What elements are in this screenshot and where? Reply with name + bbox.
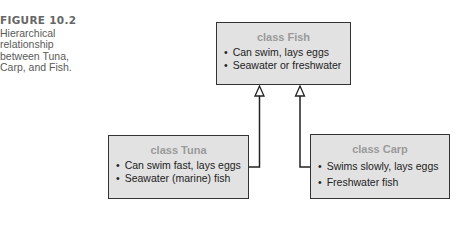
tuna-inheritance-arrow-icon — [255, 86, 264, 96]
class-fish-box: class Fish Can swim, lays eggs Seawater … — [216, 22, 351, 85]
attribute-item: Swims slowly, lays eggs — [318, 158, 449, 174]
attribute-item: Seawater or freshwater — [224, 59, 350, 72]
tuna-to-fish-line — [249, 96, 260, 167]
class-tuna-attributes: Can swim fast, lays eggs Seawater (marin… — [109, 159, 248, 185]
class-tuna-title: class Tuna — [109, 144, 248, 156]
carp-inheritance-arrow-icon — [296, 86, 305, 96]
class-fish-attributes: Can swim, lays eggs Seawater or freshwat… — [217, 46, 350, 72]
attribute-item: Seawater (marine) fish — [116, 172, 248, 185]
class-fish-title: class Fish — [217, 31, 350, 43]
carp-to-fish-line — [300, 96, 310, 167]
class-carp-attributes: Swims slowly, lays eggs Freshwater fish — [311, 158, 449, 190]
attribute-item: Can swim fast, lays eggs — [116, 159, 248, 172]
class-tuna-box: class Tuna Can swim fast, lays eggs Seaw… — [108, 135, 249, 199]
attribute-item: Freshwater fish — [318, 174, 449, 190]
class-carp-title: class Carp — [311, 143, 449, 155]
class-carp-box: class Carp Swims slowly, lays eggs Fresh… — [310, 134, 450, 199]
attribute-item: Can swim, lays eggs — [224, 46, 350, 59]
